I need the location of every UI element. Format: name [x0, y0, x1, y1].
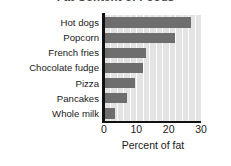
- x-tick-label: 20: [154, 123, 184, 135]
- bar-row: Popcorn: [104, 30, 201, 45]
- bar-row: French fries: [104, 45, 201, 60]
- x-axis-title: Percent of fat: [78, 139, 228, 151]
- bar: [104, 108, 115, 118]
- x-tick-label: 0: [89, 123, 119, 135]
- x-tick-label: 10: [121, 123, 151, 135]
- bar-row: Chocolate fudge: [104, 60, 201, 75]
- bar: [104, 93, 127, 103]
- plot-area: Hot dogsPopcornFrench friesChocolate fud…: [104, 15, 201, 121]
- bar-row: Whole milk: [104, 106, 201, 121]
- bar-row: Hot dogs: [104, 15, 201, 30]
- category-label: Popcorn: [63, 30, 104, 45]
- bar-row: Pancakes: [104, 91, 201, 106]
- category-label: Pizza: [76, 76, 104, 91]
- bar: [104, 48, 146, 58]
- x-tick-label: 30: [186, 123, 216, 135]
- chart-title: Fat Content of Foods: [0, 0, 231, 3]
- y-axis-spine: [102, 13, 105, 123]
- bar: [104, 33, 175, 43]
- bar: [104, 78, 135, 88]
- category-label: Chocolate fudge: [29, 60, 104, 75]
- bar-row: Pizza: [104, 76, 201, 91]
- category-label: Hot dogs: [61, 15, 104, 30]
- bar: [104, 17, 191, 27]
- category-label: Pancakes: [57, 91, 104, 106]
- category-label: Whole milk: [52, 106, 104, 121]
- bar-chart: Fat Content of Foods Hot dogsPopcornFren…: [0, 0, 231, 166]
- bar: [104, 63, 143, 73]
- category-label: French fries: [48, 45, 104, 60]
